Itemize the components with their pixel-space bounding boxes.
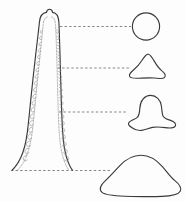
- cross-section-4-broad-dome: [100, 155, 181, 196]
- cross-section-3-bell: [128, 95, 175, 130]
- spire-left-inner-contour: [18, 17, 47, 170]
- cross-section-diagram: [0, 0, 185, 202]
- spire-right-texture-marks: [56, 30, 68, 161]
- main-spire-profile: [12, 9, 72, 170]
- cross-section-2-rounded-triangle: [129, 54, 165, 78]
- spire-right-flank: [53, 12, 73, 170]
- spire-apex: [46, 9, 52, 12]
- diagram-canvas: [0, 0, 185, 202]
- cross-section-1-circle: [132, 13, 159, 40]
- spire-right-inner-contour: [52, 17, 69, 170]
